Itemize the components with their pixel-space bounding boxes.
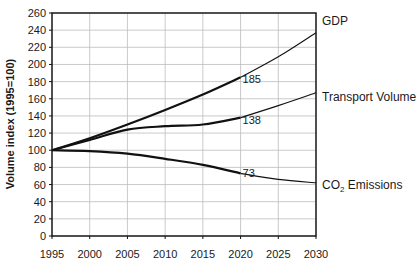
y-tick-label: 140: [28, 110, 46, 122]
series-labels: GDPTransport VolumeCO2 Emissions: [322, 14, 417, 194]
y-axis-label: Volume index (1995=100): [4, 59, 16, 190]
series-line-gdp: [52, 77, 241, 150]
line-chart: 020406080100120140160180200220240260 199…: [0, 0, 419, 268]
y-tick-label: 260: [28, 7, 46, 19]
x-tick-label: 2000: [77, 248, 101, 260]
x-tick-label: 2015: [191, 248, 215, 260]
series-line-co2-emissions: [52, 150, 241, 173]
y-tick-label: 80: [34, 161, 46, 173]
data-label: 138: [243, 114, 261, 126]
data-label: 73: [243, 167, 255, 179]
y-tick-label: 60: [34, 179, 46, 191]
series-line-transport-volume: [52, 118, 241, 151]
y-tick-label: 180: [28, 76, 46, 88]
y-tick-label: 40: [34, 196, 46, 208]
y-tick-label: 120: [28, 127, 46, 139]
y-axis-ticks: 020406080100120140160180200220240260: [28, 7, 52, 242]
y-tick-label: 0: [40, 230, 46, 242]
x-tick-label: 2010: [153, 248, 177, 260]
x-tick-label: 2025: [266, 248, 290, 260]
y-tick-label: 220: [28, 41, 46, 53]
x-tick-label: 2030: [304, 248, 328, 260]
y-tick-label: 240: [28, 24, 46, 36]
data-label: 185: [243, 73, 261, 85]
y-tick-label: 200: [28, 58, 46, 70]
x-axis-ticks: 19952000200520102015202020252030: [40, 236, 328, 260]
x-tick-label: 2020: [228, 248, 252, 260]
series-lines: [52, 33, 316, 183]
x-tick-label: 2005: [115, 248, 139, 260]
series-label-co2-emissions: CO2 Emissions: [322, 178, 402, 194]
series-label-transport-volume: Transport Volume: [322, 90, 417, 104]
y-tick-label: 20: [34, 213, 46, 225]
series-label-gdp: GDP: [322, 14, 348, 28]
y-tick-label: 100: [28, 144, 46, 156]
data-annotations: 18513873: [243, 73, 261, 179]
x-tick-label: 1995: [40, 248, 64, 260]
y-tick-label: 160: [28, 93, 46, 105]
